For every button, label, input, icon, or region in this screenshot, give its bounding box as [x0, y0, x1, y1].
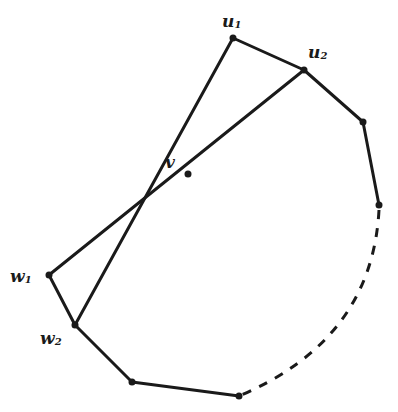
node-u2: [301, 67, 308, 74]
node-r2: [376, 202, 383, 209]
edge-u2-w1: [49, 70, 304, 275]
label-u2: u2: [308, 42, 327, 62]
node-w1: [46, 272, 53, 279]
label-u1: u1: [222, 11, 241, 31]
node-b1: [129, 379, 136, 386]
edge-u1-w2: [75, 38, 233, 325]
edge-w1-w2: [49, 275, 75, 325]
graph-diagram: u1 u2 v w1 w2: [0, 0, 398, 412]
node-u1: [230, 35, 237, 42]
label-w2: w2: [40, 328, 62, 348]
node-b2: [236, 393, 243, 400]
node-v: [185, 171, 192, 178]
edge-u1-u2: [233, 38, 304, 70]
edge-u2-r1: [304, 70, 363, 122]
label-w1: w1: [10, 266, 32, 286]
edge-b1-b2: [132, 382, 239, 396]
edge-r1-r2: [363, 122, 379, 205]
edge-w2-b1: [75, 325, 132, 382]
node-r1: [360, 119, 367, 126]
dashed-arc-r2-b2: [239, 210, 379, 396]
node-w2: [72, 322, 79, 329]
label-v: v: [165, 152, 176, 172]
